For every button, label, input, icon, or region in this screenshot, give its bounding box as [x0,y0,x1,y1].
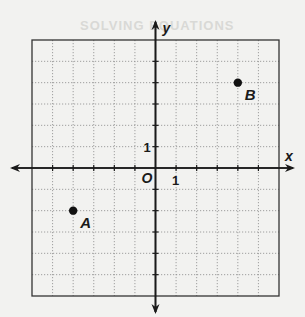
point-label-b: B [245,86,256,103]
axes [12,22,293,312]
point-b [234,78,242,86]
plotted-points: AB [69,78,256,230]
point-a [69,206,77,214]
y-tick-label-1: 1 [144,140,151,155]
x-tick-label-1: 1 [172,173,179,188]
y-axis-label: y [162,20,172,36]
coordinate-plane: xyO11 AB [0,0,305,317]
x-axis-label: x [284,148,294,164]
point-label-a: A [79,214,91,231]
origin-label: O [142,170,153,186]
